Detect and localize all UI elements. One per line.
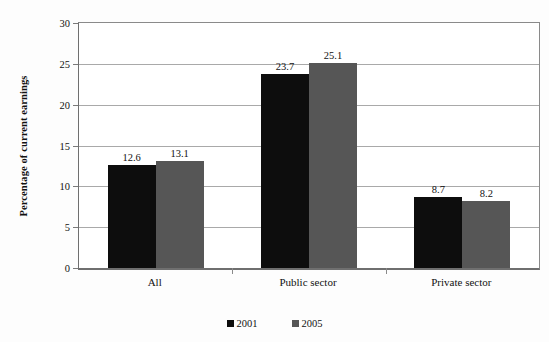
bar-value-label: 23.7 <box>276 61 294 72</box>
bar-value-label: 8.7 <box>432 184 445 195</box>
bar-2005-private-sector: 8.2 <box>462 201 510 268</box>
bar-value-label: 8.2 <box>480 188 493 199</box>
bar-value-label: 12.6 <box>122 152 140 163</box>
y-axis-tick-label: 20 <box>60 99 71 110</box>
legend-entry-2005[interactable]: 2005 <box>292 318 323 329</box>
x-axis-label-private-sector: Private sector <box>431 276 491 288</box>
bar-2001-public-sector: 23.7 <box>261 74 309 268</box>
x-axis-label-public-sector: Public sector <box>279 276 336 288</box>
x-axis-label-all: All <box>148 276 162 288</box>
bar-2001-all: 12.6 <box>108 165 156 268</box>
category-separator-tick <box>232 268 233 274</box>
y-axis-tick-label: 10 <box>60 181 71 192</box>
legend-swatch-icon <box>292 320 299 327</box>
y-axis-title: Percentage of current earnings <box>12 12 34 280</box>
y-axis-tick-label: 5 <box>65 222 70 233</box>
legend-label: 2001 <box>237 318 258 329</box>
bar-chart-figure: Percentage of current earnings 051015202… <box>0 0 549 342</box>
legend-entry-2001[interactable]: 2001 <box>227 318 258 329</box>
legend-label: 2005 <box>302 318 323 329</box>
y-axis-tick-label: 15 <box>60 140 71 151</box>
bar-2005-public-sector: 25.1 <box>309 63 357 268</box>
y-axis-tick-label: 0 <box>65 263 70 274</box>
bar-value-label: 13.1 <box>170 148 188 159</box>
y-axis-tick-mark <box>73 23 78 24</box>
bar-2005-all: 13.1 <box>156 161 204 268</box>
plot-area: 051015202530 12.613.123.725.18.78.2 <box>78 22 540 270</box>
y-axis-tick-mark <box>73 105 78 106</box>
y-axis-tick-mark <box>73 146 78 147</box>
y-axis-tick-label: 30 <box>60 18 71 29</box>
y-axis-tick-mark <box>73 64 78 65</box>
bar-value-label: 25.1 <box>324 50 342 61</box>
chart-legend: 20012005 <box>0 318 549 329</box>
y-axis-tick-mark <box>73 268 78 269</box>
y-axis-tick-label: 25 <box>60 58 71 69</box>
y-axis-tick-mark <box>73 227 78 228</box>
legend-swatch-icon <box>227 320 234 327</box>
y-axis-tick-mark <box>73 186 78 187</box>
bar-2001-private-sector: 8.7 <box>414 197 462 268</box>
category-separator-tick <box>386 268 387 274</box>
